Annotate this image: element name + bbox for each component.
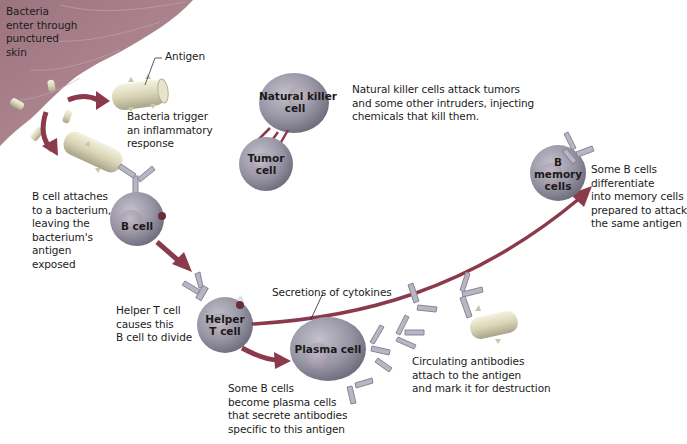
bacterium-marked — [468, 305, 520, 344]
label-inflammatory-response: Bacteria trigger an inflammatory respons… — [127, 110, 213, 151]
label-antigen: Antigen — [165, 50, 205, 64]
arrow-b-to-helper — [157, 242, 180, 262]
cell-label-tumor: Tumor cell — [240, 152, 292, 176]
arrow-helper-to-plasma — [242, 348, 278, 360]
label-helper-description: Helper T cell causes this B cell to divi… — [116, 304, 192, 345]
antibody-helper — [182, 272, 208, 301]
b-cell — [110, 192, 166, 246]
label-plasma-description: Some B cells become plasma cells that se… — [228, 382, 347, 436]
arrow-to-memory — [252, 198, 580, 324]
bacterium-attached — [60, 128, 126, 176]
antibody-b-cell — [118, 164, 155, 196]
bacterium-antigen — [110, 58, 169, 112]
label-memory-description: Some B cells differentiate into memory c… — [591, 163, 687, 231]
arrow-to-antigen — [68, 97, 98, 100]
label-bacteria-enter: Bacteria enter through punctured skin — [6, 5, 77, 59]
label-circulating-antibodies: Circulating antibodies attach to the ant… — [412, 355, 551, 396]
cell-label-plasma: Plasma cell — [290, 343, 366, 355]
label-nk-description: Natural killer cells attack tumors and s… — [352, 83, 534, 124]
cell-label-b-memory: B memory cells — [532, 156, 584, 192]
label-cytokines: Secretions of cytokines — [272, 286, 392, 300]
cell-label-b-cell: B cell — [112, 220, 162, 232]
label-b-cell-attaches: B cell attaches to a bacterium, leaving … — [32, 190, 111, 271]
cell-label-helper-t: Helper T cell — [200, 313, 250, 337]
cell-label-natural-killer: Natural killer cell — [259, 90, 331, 114]
